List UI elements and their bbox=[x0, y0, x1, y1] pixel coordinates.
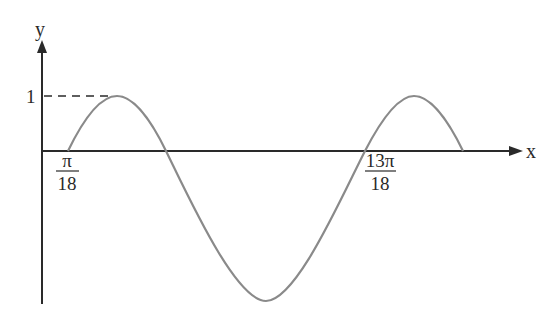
tick1-numerator: π bbox=[62, 150, 72, 171]
sine-curve bbox=[68, 96, 463, 301]
tick2-denominator: 18 bbox=[371, 173, 390, 194]
y-axis-arrow-icon bbox=[37, 40, 47, 53]
y-axis-label: y bbox=[35, 18, 45, 41]
tick1-denominator: 18 bbox=[58, 173, 77, 194]
tick2-numerator: 13π bbox=[366, 150, 395, 171]
y-tick-one: 1 bbox=[26, 86, 36, 107]
x-axis-arrow-icon bbox=[509, 146, 523, 156]
sine-graph: y x 1 π 18 13π 18 bbox=[0, 0, 553, 324]
x-axis-label: x bbox=[526, 140, 536, 162]
